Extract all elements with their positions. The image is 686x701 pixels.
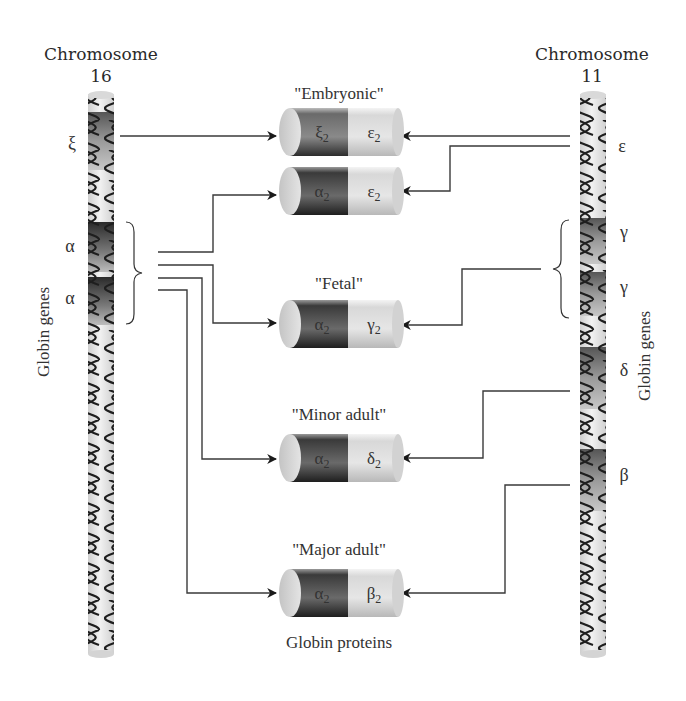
chromosome-11-top-cap [580, 91, 606, 99]
arrow-alpha-to-fetal [158, 265, 276, 323]
cylinder-cap [279, 108, 301, 156]
chromosome-16-top-cap [88, 91, 114, 99]
chromosome-11-bottom-cap [580, 650, 606, 658]
arrow-gamma-to-fetal [402, 269, 541, 325]
cylinder-cap [279, 434, 301, 482]
chromosome-11-number: 11 [581, 66, 603, 86]
group-label-embryonic: "Embryonic" [294, 84, 383, 103]
gene-label-alpha-1: α [65, 236, 75, 256]
cylinder-end [392, 569, 404, 617]
arrow-alpha-to-embryonic [158, 195, 276, 252]
dna-helix-icon [580, 98, 606, 650]
cylinder-cap [279, 300, 301, 348]
group-label-minor-adult: "Minor adult" [292, 405, 387, 424]
cylinder-end [392, 300, 404, 348]
gene-label-delta: δ [620, 360, 628, 380]
cylinder-end [392, 167, 404, 215]
arrow-epsilon-to-embryonic-2 [402, 146, 570, 191]
protein-minor-adult-alpha-delta: "Minor adult" α2 δ2 [279, 405, 404, 482]
gene-label-gamma-1: γ [619, 222, 628, 242]
gene-label-beta: β [619, 465, 628, 485]
chromosome-11-title: Chromosome [535, 44, 649, 64]
chromosome-16-side-label: Globin genes [34, 287, 53, 377]
gene-label-epsilon: ε [618, 136, 626, 156]
protein-embryonic-alpha-epsilon: α2 ε2 [279, 167, 404, 215]
arrow-delta-to-minor-adult [402, 391, 570, 458]
arrow-alpha-to-major-adult [158, 290, 276, 593]
chromosome-16-number: 16 [90, 66, 112, 86]
chromosome-11-side-label: Globin genes [635, 311, 654, 401]
gene-label-gamma-2: γ [619, 277, 628, 297]
globin-proteins-label: Globin proteins [286, 633, 392, 652]
group-label-major-adult: "Major adult" [292, 540, 386, 559]
globin-diagram: Chromosome 16 ξ α α Globin genes Chromos… [0, 0, 686, 701]
chromosome-16-title: Chromosome [44, 44, 158, 64]
gene-label-zeta: ξ [68, 133, 76, 153]
cylinder-cap [279, 167, 301, 215]
cylinder-end [392, 108, 404, 156]
chromosome-16-bottom-cap [88, 650, 114, 658]
arrow-beta-to-major-adult [402, 485, 570, 593]
group-label-fetal: "Fetal" [315, 274, 363, 293]
gene-label-alpha-2: α [65, 288, 75, 308]
alpha-brace [126, 222, 142, 324]
protein-embryonic-zeta-epsilon: "Embryonic" ξ2 ε2 [279, 84, 404, 156]
protein-fetal-alpha-gamma: "Fetal" α2 γ2 [279, 274, 404, 348]
arrow-alpha-to-minor-adult [158, 278, 276, 459]
dna-helix-icon [88, 98, 114, 650]
cylinder-end [392, 434, 404, 482]
protein-major-adult-alpha-beta: "Major adult" α2 β2 [279, 540, 404, 617]
cylinder-cap [279, 569, 301, 617]
gamma-brace [553, 220, 569, 318]
